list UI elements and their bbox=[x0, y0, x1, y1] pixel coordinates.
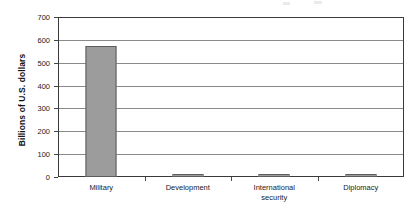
x-tick-label-line: Military bbox=[58, 183, 145, 193]
x-tick-label: Development bbox=[145, 183, 232, 193]
x-tick-label: Internationalsecurity bbox=[231, 183, 318, 202]
x-tick-label-line: Diplomacy bbox=[318, 183, 405, 193]
y-tick-label: 100 bbox=[37, 150, 50, 159]
x-tick-mark bbox=[145, 177, 146, 181]
y-tick-label: 400 bbox=[37, 81, 50, 90]
scan-artifact bbox=[283, 2, 290, 5]
y-axis-ticks: 0100200300400500600700 bbox=[0, 0, 58, 211]
x-axis: MilitaryDevelopmentInternationalsecurity… bbox=[58, 177, 404, 211]
bar-slot bbox=[231, 17, 318, 177]
bar-series bbox=[58, 17, 404, 177]
bar-chart: Billions of U.S. dollars 010020030040050… bbox=[0, 0, 416, 211]
bar-slot bbox=[145, 17, 232, 177]
x-tick-mark bbox=[231, 177, 232, 181]
y-tick-label: 700 bbox=[37, 13, 50, 22]
y-tick-label: 600 bbox=[37, 35, 50, 44]
x-tick-label-line: International bbox=[231, 183, 318, 193]
x-tick-label-line: security bbox=[231, 193, 318, 203]
scan-artifact bbox=[314, 1, 322, 4]
y-tick-label: 300 bbox=[37, 104, 50, 113]
y-tick-label: 500 bbox=[37, 58, 50, 67]
x-tick-label: Military bbox=[58, 183, 145, 193]
y-tick-label: 0 bbox=[46, 173, 50, 182]
y-tick-label: 200 bbox=[37, 127, 50, 136]
bar-slot bbox=[318, 17, 405, 177]
bar-slot bbox=[58, 17, 145, 177]
bar[interactable] bbox=[86, 46, 117, 177]
x-tick-label-line: Development bbox=[145, 183, 232, 193]
x-tick-label: Diplomacy bbox=[318, 183, 405, 193]
x-tick-mark bbox=[318, 177, 319, 181]
